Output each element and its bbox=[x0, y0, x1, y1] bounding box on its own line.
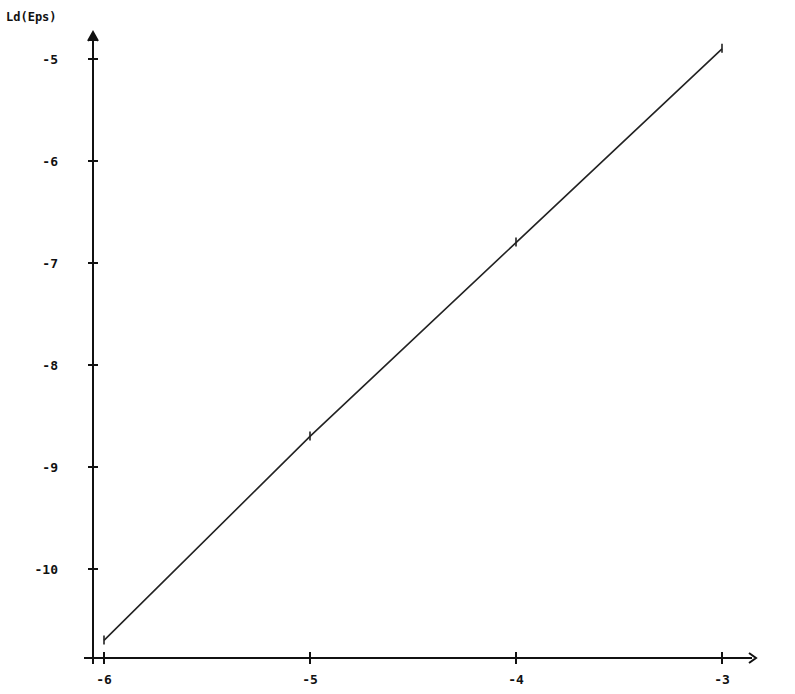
x-tick-label: -5 bbox=[302, 672, 318, 687]
x-tick-label: -4 bbox=[508, 672, 524, 687]
data-series bbox=[104, 44, 722, 645]
y-axis-title: Ld(Eps) bbox=[6, 10, 57, 24]
y-axis-arrow-icon bbox=[88, 32, 98, 41]
y-tick-label: -10 bbox=[35, 562, 59, 577]
x-tick-label: -3 bbox=[714, 672, 730, 687]
y-tick-label: -8 bbox=[42, 358, 58, 373]
chart: Ld(Eps) -5-6-7-8-9-10 -6-5-4-3 bbox=[0, 0, 795, 694]
y-tick-label: -6 bbox=[42, 154, 58, 169]
y-tick-label: -7 bbox=[42, 256, 58, 271]
y-tick-label: -5 bbox=[42, 52, 58, 67]
axes bbox=[84, 32, 756, 664]
series-line bbox=[104, 49, 722, 641]
y-ticks: -5-6-7-8-9-10 bbox=[35, 52, 98, 577]
y-tick-label: -9 bbox=[42, 460, 58, 475]
x-tick-label: -6 bbox=[96, 672, 112, 687]
